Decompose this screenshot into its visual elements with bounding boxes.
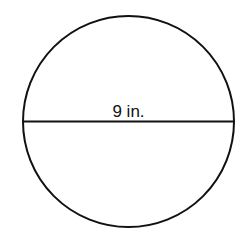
circle-diagram: 9 in. [0, 0, 248, 234]
diameter-label: 9 in. [112, 102, 144, 121]
